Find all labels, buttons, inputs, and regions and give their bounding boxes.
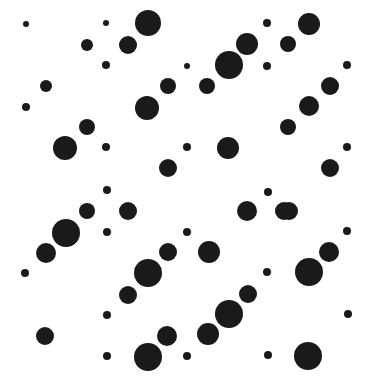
- scatter-dot: [264, 188, 272, 196]
- scatter-dot: [184, 63, 190, 69]
- scatter-dot: [21, 269, 29, 277]
- scatter-dot: [198, 241, 220, 263]
- scatter-dot: [103, 311, 111, 319]
- scatter-dot: [103, 20, 109, 26]
- scatter-dot: [343, 61, 351, 69]
- scatter-dot: [79, 203, 95, 219]
- scatter-dot: [160, 78, 176, 94]
- dot-pattern-svg: [0, 0, 372, 381]
- scatter-dot: [343, 143, 351, 151]
- scatter-dot: [81, 39, 93, 51]
- scatter-dot: [36, 243, 56, 263]
- scatter-dot: [36, 327, 54, 345]
- scatter-dot: [40, 80, 52, 92]
- scatter-dot: [299, 96, 319, 116]
- dot-pattern-canvas: [0, 0, 372, 381]
- scatter-dot: [280, 202, 298, 220]
- scatter-dot: [119, 286, 137, 304]
- scatter-dot: [319, 242, 339, 262]
- scatter-dot: [157, 326, 177, 346]
- scatter-dot: [103, 352, 111, 360]
- scatter-dot: [52, 219, 80, 247]
- scatter-dot: [239, 285, 257, 303]
- scatter-dot: [295, 258, 323, 286]
- scatter-dot: [263, 19, 271, 27]
- scatter-dot: [159, 159, 177, 177]
- scatter-dot: [22, 103, 30, 111]
- scatter-dot: [103, 186, 111, 194]
- scatter-dot: [135, 10, 161, 36]
- scatter-dot: [183, 143, 191, 151]
- canvas-background: [0, 0, 372, 381]
- scatter-dot: [23, 21, 29, 27]
- scatter-dot: [199, 78, 215, 94]
- scatter-dot: [217, 137, 239, 159]
- scatter-dot: [280, 119, 296, 135]
- scatter-dot: [119, 202, 137, 220]
- scatter-dot: [321, 159, 339, 177]
- scatter-dot: [237, 201, 257, 221]
- scatter-dot: [263, 268, 271, 276]
- scatter-dot: [53, 136, 77, 160]
- scatter-dot: [321, 77, 339, 95]
- scatter-dot: [183, 228, 191, 236]
- scatter-dot: [119, 36, 137, 54]
- scatter-dot: [280, 36, 296, 52]
- scatter-dot: [134, 259, 162, 287]
- scatter-dot: [298, 13, 320, 35]
- scatter-dot: [102, 61, 110, 69]
- scatter-dot: [264, 351, 272, 359]
- scatter-dot: [215, 300, 243, 328]
- scatter-dot: [103, 228, 111, 236]
- scatter-dot: [294, 342, 322, 370]
- scatter-dot: [102, 143, 110, 151]
- scatter-dot: [344, 310, 352, 318]
- scatter-dot: [183, 352, 191, 360]
- scatter-dot: [159, 243, 177, 261]
- scatter-dot: [79, 119, 95, 135]
- scatter-dot: [215, 51, 243, 79]
- scatter-dot: [135, 96, 159, 120]
- scatter-dot: [343, 227, 351, 235]
- scatter-dot: [134, 343, 162, 371]
- scatter-dot: [236, 33, 258, 55]
- scatter-dot: [263, 62, 271, 70]
- scatter-dot: [197, 323, 219, 345]
